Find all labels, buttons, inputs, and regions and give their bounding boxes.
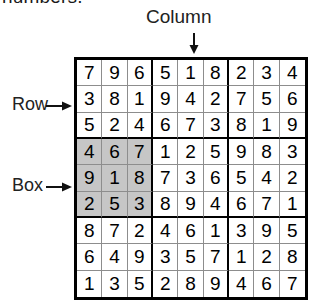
sudoku-cell-r3c1[interactable]: 5 [77,113,102,139]
sudoku-cell-r8c1[interactable]: 6 [77,244,102,270]
sudoku-cell-r3c4[interactable]: 6 [153,113,178,139]
sudoku-cell-r7c1[interactable]: 8 [77,218,102,244]
sudoku-cell-r8c9[interactable]: 8 [280,244,305,270]
sudoku-cell-r1c9[interactable]: 4 [280,60,305,86]
sudoku-cell-r1c2[interactable]: 9 [102,60,127,86]
sudoku-cell-r2c3[interactable]: 1 [128,86,153,112]
sudoku-cell-r7c7[interactable]: 3 [229,218,254,244]
sudoku-cell-r2c9[interactable]: 6 [280,86,305,112]
sudoku-cell-r4c1[interactable]: 4 [77,139,102,165]
sudoku-cell-r5c6[interactable]: 6 [204,165,229,191]
sudoku-cell-r6c5[interactable]: 9 [178,192,203,218]
sudoku-cell-r1c4[interactable]: 5 [153,60,178,86]
sudoku-cell-r8c3[interactable]: 9 [128,244,153,270]
sudoku-cell-r4c2[interactable]: 6 [102,139,127,165]
sudoku-cell-r3c5[interactable]: 7 [178,113,203,139]
sudoku-cell-r9c4[interactable]: 2 [153,271,178,297]
top-caption-text: numbers. [2,0,83,6]
sudoku-cell-r1c7[interactable]: 2 [229,60,254,86]
sudoku-cell-r6c2[interactable]: 5 [102,192,127,218]
sudoku-cell-r1c5[interactable]: 1 [178,60,203,86]
sudoku-cell-r3c7[interactable]: 8 [229,113,254,139]
sudoku-cell-r8c7[interactable]: 1 [229,244,254,270]
sudoku-cell-r9c1[interactable]: 1 [77,271,102,297]
sudoku-cell-r1c6[interactable]: 8 [204,60,229,86]
sudoku-cell-r4c6[interactable]: 5 [204,139,229,165]
sudoku-cell-r2c2[interactable]: 8 [102,86,127,112]
sudoku-cell-r3c6[interactable]: 3 [204,113,229,139]
sudoku-cell-r9c2[interactable]: 3 [102,271,127,297]
sudoku-cell-r9c8[interactable]: 6 [254,271,279,297]
box-label: Box [12,176,43,194]
sudoku-cell-r4c3[interactable]: 7 [128,139,153,165]
sudoku-cell-r2c4[interactable]: 9 [153,86,178,112]
sudoku-cell-r8c5[interactable]: 5 [178,244,203,270]
sudoku-cell-r6c6[interactable]: 4 [204,192,229,218]
sudoku-cell-r2c1[interactable]: 3 [77,86,102,112]
sudoku-cell-r7c4[interactable]: 4 [153,218,178,244]
sudoku-cell-r4c7[interactable]: 9 [229,139,254,165]
row-label: Row [12,95,48,113]
sudoku-cell-r5c7[interactable]: 5 [229,165,254,191]
sudoku-cell-r5c8[interactable]: 4 [254,165,279,191]
arrow-right-icon [46,98,72,110]
sudoku-cell-r8c6[interactable]: 7 [204,244,229,270]
sudoku-cell-r7c6[interactable]: 1 [204,218,229,244]
sudoku-cell-r9c6[interactable]: 9 [204,271,229,297]
sudoku-cell-r3c2[interactable]: 2 [102,113,127,139]
sudoku-cell-r6c3[interactable]: 3 [128,192,153,218]
sudoku-cell-r5c2[interactable]: 1 [102,165,127,191]
sudoku-cell-r3c9[interactable]: 9 [280,113,305,139]
sudoku-cell-r3c3[interactable]: 4 [128,113,153,139]
sudoku-cell-r4c5[interactable]: 2 [178,139,203,165]
sudoku-cell-r9c7[interactable]: 4 [229,271,254,297]
sudoku-cell-r6c7[interactable]: 6 [229,192,254,218]
sudoku-cell-r7c2[interactable]: 7 [102,218,127,244]
sudoku-cell-r4c4[interactable]: 1 [153,139,178,165]
sudoku-cell-r9c5[interactable]: 8 [178,271,203,297]
sudoku-cell-r2c5[interactable]: 4 [178,86,203,112]
sudoku-cell-r9c9[interactable]: 7 [280,271,305,297]
sudoku-cell-r8c2[interactable]: 4 [102,244,127,270]
sudoku-cell-r7c8[interactable]: 9 [254,218,279,244]
sudoku-cell-r9c3[interactable]: 5 [128,271,153,297]
sudoku-cell-r7c3[interactable]: 2 [128,218,153,244]
sudoku-cell-r1c8[interactable]: 3 [254,60,279,86]
sudoku-cell-r5c4[interactable]: 7 [153,165,178,191]
sudoku-cell-r5c3[interactable]: 8 [128,165,153,191]
sudoku-cell-r8c4[interactable]: 3 [153,244,178,270]
sudoku-cell-r8c8[interactable]: 2 [254,244,279,270]
arrow-right-icon [46,179,72,191]
sudoku-cell-r5c1[interactable]: 9 [77,165,102,191]
sudoku-cell-r5c9[interactable]: 2 [280,165,305,191]
sudoku-cell-r6c8[interactable]: 7 [254,192,279,218]
sudoku-cell-r2c6[interactable]: 2 [204,86,229,112]
arrow-down-icon [188,33,200,54]
sudoku-cell-r1c1[interactable]: 7 [77,60,102,86]
column-label: Column [146,7,211,26]
sudoku-cell-r4c8[interactable]: 8 [254,139,279,165]
sudoku-cell-r6c1[interactable]: 2 [77,192,102,218]
sudoku-cell-r5c5[interactable]: 3 [178,165,203,191]
sudoku-cell-r7c9[interactable]: 5 [280,218,305,244]
sudoku-grid: 7965182343819427565246738194671259839187… [74,57,308,300]
sudoku-cell-r2c7[interactable]: 7 [229,86,254,112]
sudoku-cell-r7c5[interactable]: 6 [178,218,203,244]
sudoku-cell-r2c8[interactable]: 5 [254,86,279,112]
sudoku-cell-r4c9[interactable]: 3 [280,139,305,165]
sudoku-cell-r6c4[interactable]: 8 [153,192,178,218]
sudoku-cell-r1c3[interactable]: 6 [128,60,153,86]
sudoku-cell-r6c9[interactable]: 1 [280,192,305,218]
sudoku-cell-r3c8[interactable]: 1 [254,113,279,139]
